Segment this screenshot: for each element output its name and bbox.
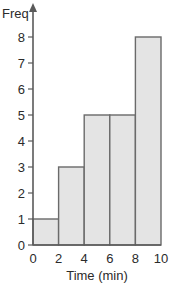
- y-tick-label: 5: [18, 108, 25, 123]
- y-tick-label: 7: [18, 56, 25, 71]
- histogram-bar-0-2: [33, 219, 59, 245]
- x-tick-label: 10: [154, 251, 168, 266]
- y-tick-label: 2: [18, 186, 25, 201]
- histogram-bar-2-4: [59, 167, 85, 245]
- x-tick-label: 8: [132, 251, 139, 266]
- y-tick-label: 3: [18, 160, 25, 175]
- x-tick-label: 2: [55, 251, 62, 266]
- histogram-chart: 012345678 0246810 Freq Time (min): [0, 0, 178, 287]
- y-axis: 012345678: [18, 3, 37, 253]
- y-tick-label: 1: [18, 212, 25, 227]
- y-axis-title: Freq: [2, 6, 29, 21]
- x-tick-label: 0: [29, 251, 36, 266]
- histogram-bar-8-10: [135, 37, 161, 245]
- y-tick-label: 8: [18, 30, 25, 45]
- bars: [33, 37, 161, 245]
- x-tick-label: 4: [81, 251, 88, 266]
- x-axis: 0246810: [29, 245, 168, 266]
- histogram-bar-6-8: [110, 115, 136, 245]
- y-tick-label: 0: [18, 238, 25, 253]
- y-tick-label: 4: [18, 134, 25, 149]
- histogram-bar-4-6: [84, 115, 110, 245]
- y-axis-arrow-icon: [29, 3, 37, 12]
- x-tick-label: 6: [106, 251, 113, 266]
- x-axis-title: Time (min): [66, 268, 128, 283]
- y-tick-label: 6: [18, 82, 25, 97]
